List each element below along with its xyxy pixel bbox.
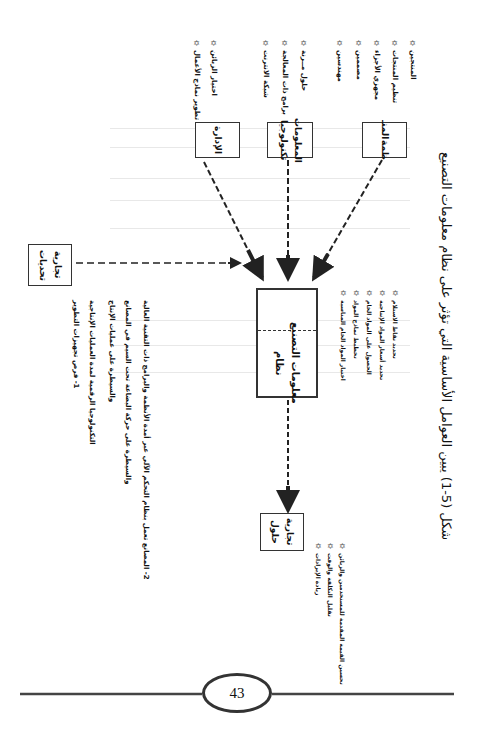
list-item-text: تحديد نقاط الاستلام	[392, 300, 398, 359]
star-bullet-icon: ✡	[300, 40, 307, 48]
list-item-text: زيادة الإيرادات	[315, 553, 321, 595]
management-box: الإدارة	[195, 122, 240, 158]
list-item-text: تحديد أسعار المواد الإنتاجية	[379, 300, 385, 380]
list-item: ✡ تحديد نقاط الاستلام	[392, 290, 399, 359]
star-bullet-icon: ✡	[392, 290, 399, 298]
figure-caption: شكل (5-1) يبين العوامل الأساسية التي تؤث…	[440, 152, 453, 540]
list-item: ✡ تقليل التكلفة والوقت	[327, 543, 334, 617]
box-label-line2: تجارية	[285, 518, 294, 545]
list-item-text: حلول مــرنة	[300, 50, 307, 91]
star-bullet-icon: ✡	[355, 40, 362, 48]
list-item: ✡ تحسين القيمة المقدمة للمستخدمين والزبا…	[339, 543, 346, 685]
box-label-line2: ظمة	[380, 140, 389, 160]
list-item: ✡ تنظيم المنتجات	[391, 40, 398, 103]
box-label-line2: المعلومات	[293, 118, 302, 163]
star-bullet-icon: ✡	[193, 40, 200, 48]
challenge-note: والسيطرة على عمليات الإنتاج	[108, 300, 115, 402]
star-bullet-icon: ✡	[391, 40, 398, 48]
organization-box: المنـ ظمة	[362, 122, 407, 158]
list-item: ✡ برامج ذات المعالجة	[281, 40, 288, 115]
list-item: ✡ تخطيط نماذج المواد	[353, 290, 360, 359]
manufacturing-information-system-box: نظام معلومات التصنيع	[256, 288, 318, 398]
business-challenges-box: تحديات تجارية	[28, 244, 72, 286]
box-label-line1: حلول	[270, 520, 279, 544]
star-bullet-icon: ✡	[315, 543, 322, 551]
challenge-note: 1- فرص تجهيزات التطوير	[72, 300, 79, 388]
list-item-text: برامج ذات المعالجة	[281, 50, 288, 115]
business-solutions-box: حلول تجارية	[260, 513, 304, 551]
star-bullet-icon: ✡	[353, 290, 360, 298]
list-item: ✡ اختيار المواد الخام المناسبة	[340, 290, 347, 381]
central-label-line1: نظام	[274, 351, 284, 376]
list-item-text: تحسين القيمة المقدمة للمستخدمين والزبائن	[339, 553, 345, 685]
star-bullet-icon: ✡	[336, 40, 343, 48]
star-bullet-icon: ✡	[409, 40, 416, 48]
list-item-text: مصممين	[355, 50, 362, 80]
star-bullet-icon: ✡	[210, 40, 217, 48]
box-label: الإدارة	[213, 126, 222, 154]
list-item-text: تقليل التكلفة والوقت	[327, 553, 333, 617]
list-item-text: تخطيط نماذج المواد	[353, 300, 359, 359]
star-bullet-icon: ✡	[373, 40, 380, 48]
challenge-note: 2- المصانع تعمل بنظام التحكم الآلي عبر أ…	[142, 300, 149, 580]
star-bullet-icon: ✡	[262, 40, 269, 48]
central-label-line2: معلومات التصنيع	[290, 322, 300, 404]
list-item: ✡ مصممين	[355, 40, 362, 80]
star-bullet-icon: ✡	[339, 543, 346, 551]
list-item: ✡ مجهزي الأجزاء	[373, 40, 380, 100]
list-item-text: اختيار المواد الخام المناسبة	[340, 300, 346, 381]
list-item-text: تنظيم المنتجات	[391, 50, 398, 103]
star-bullet-icon: ✡	[340, 290, 347, 298]
list-item: ✡ المنتجين	[409, 40, 416, 80]
list-item-text: مجهزي الأجزاء	[373, 50, 380, 100]
list-item: ✡ مهندسين	[336, 40, 343, 82]
box-label-line1: تحديات	[38, 250, 47, 281]
challenge-note: التكنولوجيا الرقمية لمدة العمليات الإنتا…	[88, 300, 95, 445]
box-label-line1: تكنولوجيا	[279, 120, 288, 161]
star-bullet-icon: ✡	[281, 40, 288, 48]
list-item: ✡ تطوير نماذج الأعمال	[193, 40, 200, 120]
star-bullet-icon: ✡	[379, 290, 386, 298]
list-item-text: المنتجين	[409, 50, 416, 80]
list-item-text: اختيار الزبائن	[210, 50, 217, 96]
list-item: ✡ الحصول على المواد الخام	[366, 290, 373, 375]
box-label-line1: المنـ	[380, 120, 389, 139]
list-item: ✡ اختيار الزبائن	[210, 40, 217, 96]
star-bullet-icon: ✡	[327, 543, 334, 551]
list-item: ✡ حلول مــرنة	[300, 40, 307, 91]
star-bullet-icon: ✡	[366, 290, 373, 298]
central-box-divider	[258, 330, 316, 331]
page-number: 43	[230, 685, 245, 702]
list-item: ✡ تحديد أسعار المواد الإنتاجية	[379, 290, 386, 380]
box-label-line2: تجارية	[53, 251, 62, 278]
list-item-text: مهندسين	[336, 50, 343, 82]
list-item-text: تطوير نماذج الأعمال	[193, 50, 200, 120]
page-number-badge: 43	[202, 673, 272, 713]
list-item-text: الحصول على المواد الخام	[366, 300, 372, 375]
list-item-text: شبكة الانترنت	[262, 50, 269, 98]
challenge-note: والسيطرة على حركة البضاعة تحت السيم في ا…	[124, 300, 131, 485]
information-technology-box: تكنولوجيا المعلومات	[267, 122, 313, 158]
list-item: ✡ زيادة الإيرادات	[315, 543, 322, 595]
list-item: ✡ شبكة الانترنت	[262, 40, 269, 98]
